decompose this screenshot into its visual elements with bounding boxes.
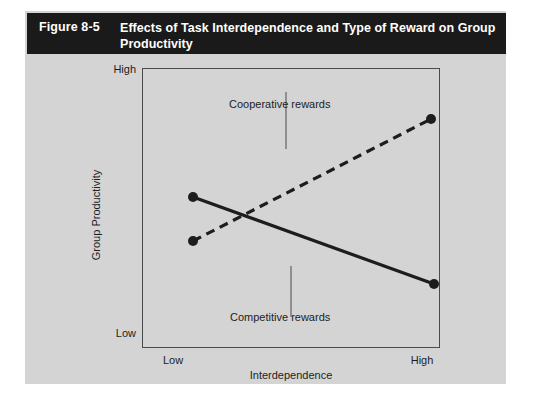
figure-number: Figure 8-5 bbox=[39, 20, 100, 34]
y-axis-title: Group Productivity bbox=[90, 140, 102, 290]
series-marker-competitive-high bbox=[429, 279, 439, 289]
series-line-cooperative bbox=[193, 119, 431, 241]
series-annotation-competitive: Competitive rewards bbox=[230, 311, 330, 323]
x-axis-tick-high: High bbox=[402, 354, 442, 366]
plot-box bbox=[142, 68, 440, 348]
series-marker-competitive-low bbox=[188, 192, 198, 202]
figure-title: Effects of Task Interdependence and Type… bbox=[120, 20, 498, 52]
y-axis-tick-low: Low bbox=[104, 327, 136, 339]
x-axis-title: Interdependence bbox=[201, 369, 381, 381]
figure-caption-bar: Figure 8-5 Effects of Task Interdependen… bbox=[27, 13, 506, 54]
plot-series-svg bbox=[143, 69, 441, 349]
series-line-competitive bbox=[193, 197, 434, 284]
series-annotation-cooperative: Cooperative rewards bbox=[229, 98, 331, 110]
figure-panel: Figure 8-5 Effects of Task Interdependen… bbox=[25, 11, 506, 384]
x-axis-tick-low: Low bbox=[153, 354, 193, 366]
chart-area: High Low Group Productivity Low High Int… bbox=[25, 54, 506, 384]
series-marker-cooperative-high bbox=[426, 114, 436, 124]
series-marker-cooperative-low bbox=[188, 236, 198, 246]
y-axis-tick-high: High bbox=[104, 63, 136, 75]
